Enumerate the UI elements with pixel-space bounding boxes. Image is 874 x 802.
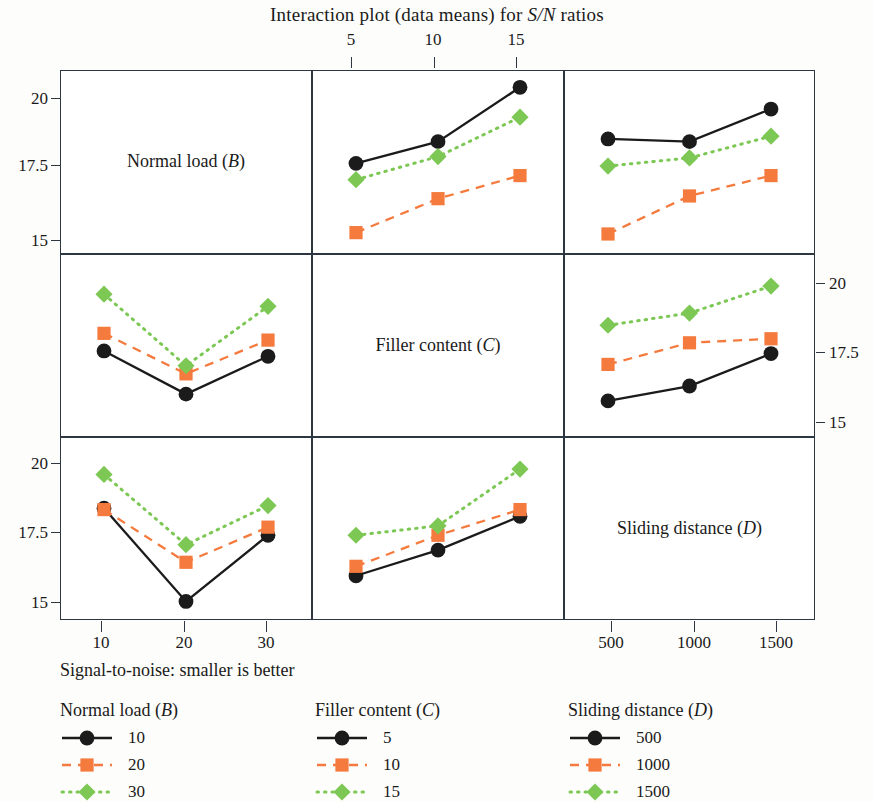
legend-entry-label: 10: [383, 755, 400, 775]
factor-name-label: Filler content (C): [313, 335, 563, 356]
legend-title-tail: ): [434, 700, 440, 720]
data-point-marker: [683, 336, 696, 349]
data-point-marker: [259, 497, 276, 514]
figure-title: Interaction plot (data means) for S/N ra…: [0, 4, 874, 26]
data-point-marker: [681, 304, 698, 321]
data-point-marker: [682, 379, 697, 394]
right-row2-tickmark-17.5: [816, 352, 825, 353]
left-row1-tickmark-20: [51, 98, 60, 99]
data-point-marker: [347, 171, 364, 188]
data-point-marker: [511, 460, 528, 477]
interaction-panel-r1c3: [564, 70, 815, 254]
legend-title-symbol: D: [694, 700, 707, 720]
data-point-marker: [261, 333, 274, 346]
data-point-marker: [179, 387, 194, 402]
data-point-marker: [764, 346, 779, 361]
top-tick-15: 15: [481, 30, 551, 50]
data-point-marker: [513, 503, 526, 516]
data-point-marker: [349, 156, 364, 171]
panel-plot: [313, 438, 563, 619]
data-point-marker: [431, 543, 446, 558]
legend-key-swatch: [315, 728, 373, 748]
legend-entry-label: 500: [636, 728, 662, 748]
legend-entry-label: 15: [383, 782, 400, 802]
left-row1-tick-20: 20: [0, 89, 48, 109]
left-row1-tick-17.5: 17.5: [0, 156, 48, 176]
panel-matrix: Normal load (B)Filler content (C)Sliding…: [60, 70, 815, 620]
right-row2-tick-20: 20: [829, 274, 874, 294]
bottom-right-tickmark-3: [776, 621, 777, 632]
bottom-left-tickmark-3: [266, 621, 267, 632]
series-line: [104, 508, 268, 601]
bottom-right-tick-500: 500: [571, 633, 651, 653]
bottom-right-tick-1500: 1500: [736, 633, 816, 653]
data-point-marker: [179, 594, 194, 609]
interaction-plot-figure: Interaction plot (data means) for S/N ra…: [0, 0, 874, 802]
left-row3-tickmark-20: [51, 463, 60, 464]
left-row1-tickmark-15: [51, 240, 60, 241]
legend-entry[interactable]: 500: [568, 724, 713, 751]
legend-entry-label: 20: [128, 755, 145, 775]
data-point-marker: [762, 277, 779, 294]
factor-name-label: Sliding distance (D): [565, 518, 814, 539]
legend-entry[interactable]: 30: [60, 778, 178, 802]
legend-entry[interactable]: 1000: [568, 751, 713, 778]
data-point-marker: [513, 169, 526, 182]
legend-key-swatch: [315, 755, 373, 775]
factor-symbol: D: [743, 518, 756, 538]
left-row3-tick-17.5: 17.5: [0, 523, 48, 543]
data-point-marker: [764, 102, 779, 117]
factor-name-tail: ): [495, 335, 501, 355]
data-point-marker: [349, 226, 362, 239]
panel-plot: [61, 255, 311, 436]
legend-title-text: Filler content (: [315, 700, 422, 720]
factor-name-label: Normal load (B): [61, 151, 311, 172]
title-italic: S/N: [527, 4, 555, 25]
legend-entry-label: 30: [128, 782, 145, 802]
series-line: [608, 354, 771, 401]
series-line: [608, 176, 771, 234]
legend-entry-label: 1000: [636, 755, 670, 775]
data-point-marker: [261, 349, 276, 364]
data-point-marker: [179, 556, 192, 569]
legend-entry[interactable]: 1500: [568, 778, 713, 802]
title-text-b: ratios: [556, 4, 604, 25]
factor-name-text: Filler content (: [376, 335, 483, 355]
bottom-left-tick-10: 10: [66, 633, 136, 653]
legend-entry[interactable]: 15: [315, 778, 440, 802]
left-row3-tickmark-15: [51, 602, 60, 603]
interaction-panel-r2c1: [60, 254, 312, 437]
series-line: [104, 474, 268, 544]
left-row1-tick-15: 15: [0, 231, 48, 251]
data-point-marker: [511, 109, 528, 126]
bottom-left-tickmark-1: [101, 621, 102, 632]
legend-entry[interactable]: 10: [315, 751, 440, 778]
legend-entry[interactable]: 10: [60, 724, 178, 751]
data-point-marker: [259, 298, 276, 315]
legend-title-symbol: B: [161, 700, 172, 720]
interaction-panel-r3c1: [60, 437, 312, 620]
factor-name-tail: ): [756, 518, 762, 538]
legend-3: Sliding distance (D)50010001500: [568, 700, 713, 802]
legend-key-swatch: [568, 782, 626, 802]
legend-key-swatch: [315, 782, 373, 802]
data-point-marker: [347, 527, 364, 544]
bottom-right-tickmark-2: [694, 621, 695, 632]
legend-entry[interactable]: 5: [315, 724, 440, 751]
factor-symbol: C: [482, 335, 494, 355]
right-row2-tickmark-20: [816, 283, 825, 284]
data-point-marker: [764, 169, 777, 182]
left-row3-tickmark-17.5: [51, 532, 60, 533]
legend-title: Normal load (B): [60, 700, 178, 721]
legend-title-tail: ): [172, 700, 178, 720]
data-point-marker: [601, 132, 616, 147]
data-point-marker: [431, 192, 444, 205]
panel-plot: [565, 71, 814, 253]
data-point-marker: [764, 332, 777, 345]
legend-key-swatch: [60, 728, 118, 748]
right-row2-tick-17.5: 17.5: [829, 343, 874, 363]
top-tickmark-1: [351, 57, 352, 68]
data-point-marker: [599, 157, 616, 174]
legend-title-symbol: C: [422, 700, 434, 720]
legend-entry[interactable]: 20: [60, 751, 178, 778]
